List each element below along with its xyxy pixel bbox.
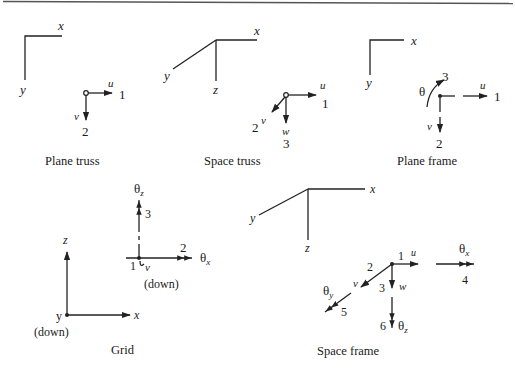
dof-number: 1: [130, 259, 136, 273]
dof-symbol: w: [399, 280, 407, 292]
axis-z-label: z: [62, 233, 68, 247]
dof-number: 2: [82, 124, 89, 139]
node-icon: [284, 93, 289, 98]
dof-number: 2: [180, 240, 187, 255]
dof-symbol: v: [74, 110, 79, 122]
axis-z-label: z: [304, 241, 310, 255]
axis-z-label: z: [212, 82, 218, 97]
dof-number: 2: [367, 260, 373, 274]
dof-number: 4: [462, 273, 468, 287]
dof-symbol: v: [261, 114, 266, 126]
dof-number: 1: [494, 89, 501, 104]
panel-space-truss: x y z u 1 2 v w 3 Space truss: [162, 23, 329, 168]
axis-y-label: y: [364, 75, 372, 90]
caption: Space truss: [204, 154, 261, 168]
dof-diagram: x y u 1 v 2 Plane truss x y z u 1 2 v w …: [0, 0, 515, 374]
dof-number: 3: [379, 281, 385, 295]
dof-number: 1: [119, 87, 126, 102]
axis-x-label: x: [57, 18, 64, 33]
axis-x-label: x: [369, 182, 376, 196]
v-hook-icon: [140, 261, 144, 265]
panel-grid: z x y (down) θz 3 2 θx 1 v (down) Grid: [34, 181, 210, 357]
dof-symbol: v: [427, 120, 432, 132]
theta-y-label: θy: [323, 283, 333, 300]
theta-z-label: θz: [134, 181, 144, 198]
down-note: (down): [144, 277, 179, 291]
axis-y-label: y: [56, 309, 62, 323]
axis-x-label: x: [410, 33, 417, 48]
dof-symbol: u: [411, 247, 416, 258]
dof-number: 3: [145, 207, 151, 221]
theta-label: θ: [419, 84, 425, 99]
axis-y-label: y: [162, 68, 170, 83]
top-rule: [3, 2, 513, 4]
node-icon: [84, 91, 89, 96]
dof-symbol: u: [320, 79, 326, 91]
caption: Plane frame: [397, 154, 457, 168]
axis-x-label: x: [133, 308, 140, 322]
dof-number: 3: [283, 136, 290, 151]
panel-plane-truss: x y u 1 v 2 Plane truss: [18, 18, 126, 168]
panel-space-frame: x y z 1 u 2 v 3 w θx 4 θy 5 6 θz Space f…: [249, 182, 474, 358]
dof-symbol: u: [480, 79, 486, 91]
arrow-v-icon: [272, 97, 285, 112]
dof-number: 5: [341, 305, 347, 319]
dof-symbol: v: [353, 277, 358, 289]
theta-x-label: θx: [459, 241, 469, 258]
caption: Grid: [111, 343, 135, 357]
dof-symbol: u: [108, 77, 114, 89]
caption: Plane truss: [45, 154, 100, 168]
dof-number: 1: [398, 249, 404, 263]
dof-number: 2: [252, 120, 259, 135]
dof-number: 6: [380, 319, 386, 333]
arrow-v-icon: [361, 264, 392, 287]
caption: Space frame: [317, 344, 380, 358]
axis-y-label: y: [18, 82, 26, 97]
dof-number: 3: [442, 69, 449, 84]
panel-plane-frame: x y θ 3 u 1 v 2 Plane frame: [364, 33, 501, 168]
dof-symbol: v: [145, 261, 150, 273]
axes-icon: [25, 36, 62, 80]
axis-y-label: y: [249, 211, 256, 225]
axis-y-note: (down): [34, 325, 69, 339]
theta-z-label: θz: [398, 318, 408, 335]
dof-number: 1: [322, 96, 329, 111]
dof-number: 2: [436, 136, 443, 151]
axis-x-label: x: [253, 23, 260, 38]
theta-x-label: θx: [200, 250, 210, 267]
rotation-arrow-icon: [427, 80, 444, 107]
axes-icon: [370, 40, 404, 75]
